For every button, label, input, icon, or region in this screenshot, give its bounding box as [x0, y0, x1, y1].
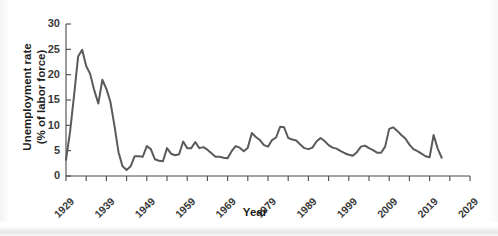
x-tick-label: 1949 — [132, 195, 157, 220]
y-tick-label: 20 — [48, 68, 60, 80]
unemployment-rate-series-line — [66, 50, 442, 170]
x-axis-title: Year — [243, 206, 268, 218]
y-tick-label: 15 — [48, 93, 60, 105]
x-axis-ticks — [66, 176, 470, 181]
chart-figure-card: 051015202530 192919391949195919691979198… — [0, 0, 498, 236]
y-axis-title-line2: (% of labor force) — [35, 50, 47, 145]
unemployment-rate-line-chart: 051015202530 192919391949195919691979198… — [0, 0, 498, 236]
x-tick-label: 2009 — [375, 195, 400, 220]
y-axis-tick-labels: 051015202530 — [48, 17, 60, 181]
y-tick-label: 10 — [48, 119, 60, 131]
x-tick-label: 1969 — [213, 195, 238, 220]
y-tick-label: 0 — [54, 169, 60, 181]
x-tick-label: 1959 — [173, 195, 198, 220]
x-tick-label: 2019 — [415, 195, 440, 220]
x-tick-label: 1929 — [51, 195, 76, 220]
y-tick-label: 30 — [48, 17, 60, 29]
x-tick-label: 1939 — [92, 195, 117, 220]
y-axis-title-line1: Unemployment rate — [21, 43, 33, 150]
x-tick-label: 1999 — [334, 195, 359, 220]
x-tick-label: 1989 — [294, 195, 319, 220]
x-tick-label: 2029 — [455, 195, 480, 220]
y-tick-label: 25 — [48, 43, 60, 55]
y-tick-label: 5 — [54, 144, 60, 156]
